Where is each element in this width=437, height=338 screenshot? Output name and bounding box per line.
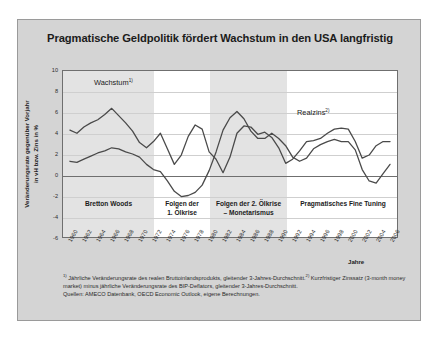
y-tick-4: 4	[32, 130, 58, 136]
series-label-realzins: Realzins2)	[297, 108, 329, 117]
y-axis-label-line1: Veränderungsrate gegenüber Vorjahr	[23, 100, 30, 207]
y-tick-2: 2	[32, 151, 58, 157]
x-axis-label: Jahre	[348, 258, 364, 265]
y-tick--4: -4	[32, 214, 58, 220]
series-label-wachstum: Wachstum1)	[94, 78, 133, 87]
y-tick-8: 8	[32, 88, 58, 94]
region-label-bretton-woods: Bretton Woods	[63, 199, 154, 208]
chart-screenshot: Pragmatische Geldpolitik fördert Wachstu…	[0, 0, 437, 338]
y-tick-10: 10	[32, 67, 58, 73]
y-tick--6: -6	[32, 235, 58, 241]
series-realzins-line	[70, 111, 390, 196]
footnotes: 1) Jährliche Veränderungsrate des realen…	[63, 272, 409, 298]
y-tick--2: -2	[32, 193, 58, 199]
plot-area: Wachstum1) Realzins2) Bretton Woods Folg…	[62, 70, 398, 238]
y-tick-6: 6	[32, 109, 58, 115]
footnote-line-1: 1) Jährliche Veränderungsrate des realen…	[63, 272, 409, 290]
region-label-folgen-2-oelkrise: Folgen der 2. Ölkrise– Monetarismus	[210, 199, 287, 217]
chart-figure: Pragmatische Geldpolitik fördert Wachstu…	[17, 19, 421, 321]
chart-title: Pragmatische Geldpolitik fördert Wachstu…	[18, 32, 422, 44]
footnote-sources: Quellen: AMECO Datenbank, OECD Economic …	[63, 290, 409, 298]
region-label-pragmatisches-fine-tuning: Pragmatisches Fine Tuning	[287, 199, 399, 208]
region-label-folgen-1-oelkrise: Folgen der1. Ölkrise	[154, 199, 210, 217]
y-tick-0: 0	[32, 172, 58, 178]
